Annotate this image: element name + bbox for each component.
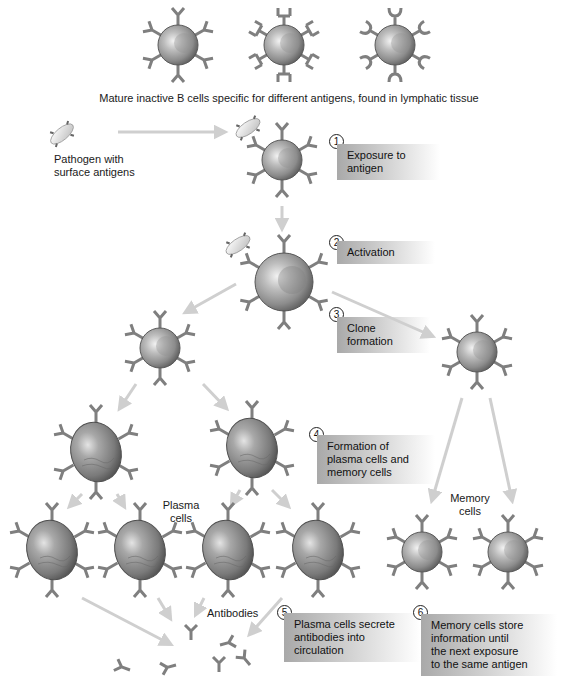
clone-cell-right — [442, 315, 512, 389]
pathogen-bound-2 — [221, 230, 254, 261]
step-label: Formation of plasma cells and memory cel… — [317, 435, 435, 484]
activated-b-cell — [240, 235, 327, 329]
clone-cell-left — [125, 311, 195, 385]
antibodies-cluster — [114, 625, 255, 676]
memory-cell-2 — [473, 515, 543, 589]
plasma-cell-4 — [276, 503, 360, 597]
arrow-plasma-b — [117, 494, 124, 506]
step-label: Plasma cells secrete antibodies into cir… — [284, 613, 420, 662]
plasma-cell-1 — [10, 503, 94, 597]
arrow-clone-to-plasma-right — [203, 384, 226, 408]
step-label: Activation — [337, 241, 435, 264]
antibodies-label: Antibodies — [207, 607, 258, 620]
pathogen-free — [45, 118, 78, 150]
step-label: Memory cells store information until the… — [421, 614, 557, 676]
pathogen-bound-1 — [231, 113, 264, 144]
arrow-secrete-1 — [82, 598, 170, 644]
arrow-plasma-c — [232, 490, 240, 504]
arrow-to-memory-right — [490, 398, 512, 500]
pathogen-label: Pathogen with surface antigens — [54, 153, 135, 179]
memory-cell-1 — [387, 515, 457, 589]
plasma-cell-gen2-left — [54, 405, 138, 499]
step-label: Exposure to antigen — [337, 144, 440, 180]
step-label: Clone formation — [337, 317, 430, 353]
arrow-to-clone-left — [186, 284, 236, 312]
arrow-secrete-3 — [196, 598, 204, 614]
arrow-plasma-d — [272, 490, 288, 506]
arrow-plasma-a — [70, 494, 82, 506]
arrow-clone-to-plasma-left — [120, 384, 136, 408]
arrow-to-memory-left — [432, 398, 462, 500]
arrow-secrete-2 — [158, 598, 170, 618]
inactive-b-cell-u — [360, 8, 430, 82]
inactive-b-cell-y — [143, 8, 213, 82]
inactive-b-cell-square — [249, 8, 319, 82]
plasma-cells-label: Plasma cells — [154, 499, 208, 525]
plasma-cell-gen2-right — [210, 401, 294, 495]
memory-cells-label: Memory cells — [440, 492, 500, 518]
exposed-b-cell — [247, 123, 317, 197]
title-caption: Mature inactive B cells specific for dif… — [0, 92, 578, 105]
